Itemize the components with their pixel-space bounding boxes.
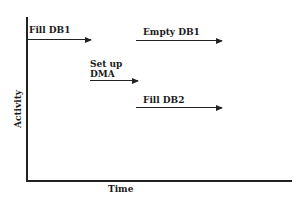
y-axis-label: Activity	[13, 89, 23, 129]
activity-label-empty-db1: Empty DB1	[143, 27, 200, 37]
x-axis	[26, 180, 292, 182]
activity-label-setup-dma-line1: Set up	[90, 59, 122, 69]
activity-arrow-empty-db1	[136, 40, 222, 41]
activity-arrow-fill-db2	[136, 107, 222, 108]
activity-arrow-setup-dma	[90, 80, 138, 81]
activity-label-setup-dma-line2: DMA	[90, 69, 115, 79]
x-axis-label: Time	[108, 184, 133, 194]
activity-label-fill-db1: Fill DB1	[29, 25, 70, 35]
y-axis	[26, 17, 28, 181]
activity-label-fill-db2: Fill DB2	[143, 95, 184, 105]
activity-arrow-fill-db1	[27, 39, 91, 40]
